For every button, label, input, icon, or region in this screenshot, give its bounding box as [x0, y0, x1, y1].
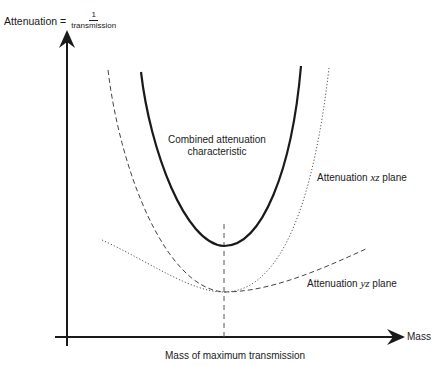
y-label-fraction: 1 transmission: [71, 10, 116, 31]
y-label-prefix: Attenuation =: [4, 15, 66, 27]
yz-label-italic: yz: [360, 277, 369, 289]
y-label-denominator: transmission: [71, 21, 116, 31]
yz-label-suffix: plane: [370, 278, 397, 289]
y-label-numerator: 1: [89, 10, 97, 21]
y-axis-label: Attenuation = 1 transmission: [4, 10, 116, 31]
xz-label-prefix: Attenuation: [317, 172, 370, 183]
x-axis-label: Mass: [407, 331, 431, 342]
yz-label-prefix: Attenuation: [307, 278, 360, 289]
max-transmission-label: Mass of maximum transmission: [165, 350, 305, 361]
combined-label: Combined attenuation characteristic: [168, 134, 266, 158]
xz-label-suffix: plane: [380, 172, 407, 183]
xz-label: Attenuation xz plane: [317, 171, 407, 183]
xz-curve: [102, 68, 329, 292]
combined-label-line2: characteristic: [168, 146, 266, 158]
combined-label-line1: Combined attenuation: [168, 134, 266, 146]
yz-label: Attenuation yz plane: [307, 277, 397, 289]
chart-canvas: [0, 0, 439, 366]
xz-label-italic: xz: [370, 171, 379, 183]
